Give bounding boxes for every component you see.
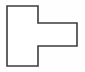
shape-canvas-svg bbox=[0, 0, 85, 72]
figure-canvas bbox=[0, 0, 85, 72]
